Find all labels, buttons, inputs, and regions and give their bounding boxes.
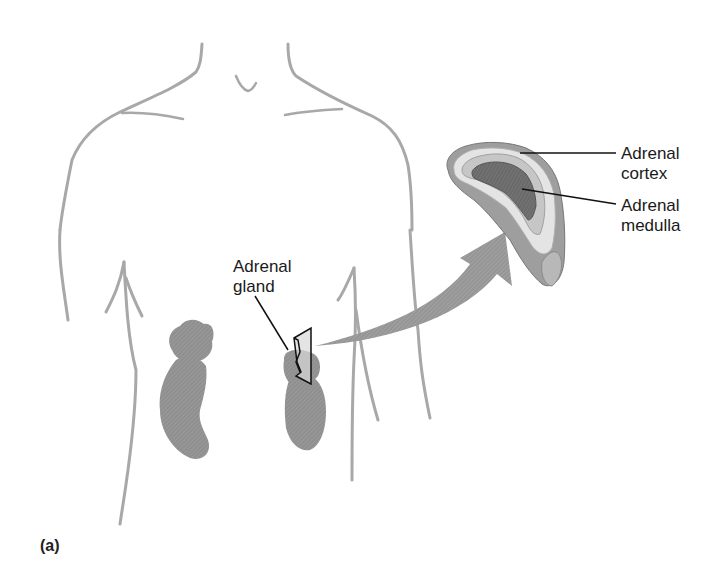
- label-adrenal-gland: Adrenal gland: [233, 257, 292, 297]
- adrenal-selection-box: [294, 328, 311, 384]
- panel-label: (a): [40, 537, 60, 555]
- left-kidney: [160, 320, 214, 459]
- adrenal-anatomy-illustration: [0, 0, 719, 576]
- leader-adrenal-gland: [255, 296, 288, 350]
- label-adrenal-medulla: Adrenal medulla: [621, 196, 681, 236]
- label-adrenal-cortex: Adrenal cortex: [621, 144, 680, 184]
